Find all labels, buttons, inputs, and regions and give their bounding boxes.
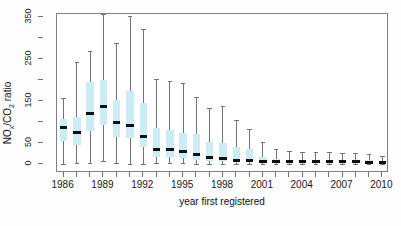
boxplot-box (163, 14, 176, 171)
median-line (86, 112, 93, 115)
median-line (100, 105, 107, 108)
y-axis-tick (38, 142, 43, 143)
boxplot-box (243, 14, 256, 171)
whisker-cap-lower (221, 164, 226, 165)
boxplot-box (203, 14, 216, 171)
whisker-cap-upper (114, 43, 119, 44)
whisker-cap-upper (221, 106, 226, 107)
x-axis-tick (102, 172, 103, 177)
x-axis-tick-label: 1998 (211, 179, 233, 190)
y-axis-tick (38, 37, 43, 38)
boxplot-box (376, 14, 387, 171)
whisker-cap-lower (75, 163, 80, 164)
median-line (259, 160, 266, 163)
boxplot-box (190, 14, 203, 171)
whisker-cap-upper (101, 14, 106, 15)
whisker-cap-upper (300, 152, 305, 153)
boxplot-box (269, 14, 282, 171)
whisker-cap-lower (314, 164, 319, 165)
median-line (339, 160, 346, 163)
whisker-cap-lower (181, 163, 186, 164)
whisker-cap-upper (181, 83, 186, 84)
whisker-cap-lower (61, 164, 66, 165)
whisker-cap-upper (168, 81, 173, 82)
median-line (272, 160, 279, 163)
x-axis: year first registered 198619891992199519… (0, 172, 401, 226)
whisker-cap-lower (274, 164, 279, 165)
boxplot-box (256, 14, 269, 171)
whisker-cap-lower (168, 163, 173, 164)
boxplot-box (70, 14, 83, 171)
whisker-cap-lower (234, 164, 239, 165)
y-axis-tick (38, 58, 43, 59)
whisker-cap-upper (234, 120, 239, 121)
whisker-cap-upper (247, 129, 252, 130)
median-line (126, 124, 133, 127)
median-line (352, 160, 359, 163)
x-axis-tick (288, 172, 289, 177)
y-axis-tick (38, 79, 43, 80)
boxplot-box (349, 14, 362, 171)
x-axis-tick (129, 172, 130, 177)
whisker-cap-upper (261, 142, 266, 143)
y-axis-tick-label: 350 (23, 4, 33, 28)
box-rect (60, 119, 67, 141)
box-rect (179, 133, 186, 158)
x-axis-tick (116, 172, 117, 177)
x-axis-tick (355, 172, 356, 177)
whisker-cap-lower (353, 164, 358, 165)
x-axis-tick (342, 172, 343, 177)
x-axis-title: year first registered (179, 196, 265, 207)
boxplot-box (177, 14, 190, 171)
whisker-cap-upper (61, 98, 66, 99)
whisker-cap-lower (207, 164, 212, 165)
x-axis-tick-label: 2004 (291, 179, 313, 190)
x-axis-tick (156, 172, 157, 177)
x-axis-tick-label: 2007 (330, 179, 352, 190)
whisker-cap-upper (380, 156, 385, 157)
median-line (193, 153, 200, 156)
median-line (246, 159, 253, 162)
whisker-cap-lower (261, 164, 266, 165)
boxplot-box (336, 14, 349, 171)
boxplot-box (309, 14, 322, 171)
x-axis-tick (262, 172, 263, 177)
y-axis-tick (38, 100, 43, 101)
y-axis-tick (38, 16, 43, 17)
boxplot-box (216, 14, 229, 171)
box-rect (113, 100, 120, 137)
box-rect (86, 82, 93, 131)
median-line (153, 148, 160, 151)
x-axis-tick (142, 172, 143, 177)
whisker-cap-upper (75, 62, 80, 63)
plot-frame (56, 13, 388, 172)
x-axis-tick (76, 172, 77, 177)
median-line (73, 131, 80, 134)
median-line (140, 135, 147, 138)
median-line (326, 160, 333, 163)
y-axis-title: NOx/CO2 ratio (2, 82, 15, 144)
x-axis-tick-label: 2001 (251, 179, 273, 190)
x-axis-tick (222, 172, 223, 177)
x-axis-tick (249, 172, 250, 177)
whisker-cap-upper (287, 151, 292, 152)
whisker-cap-upper (274, 149, 279, 150)
whisker-cap-lower (327, 164, 332, 165)
box-rect (100, 80, 107, 125)
median-line (60, 126, 67, 129)
whisker-cap-upper (314, 152, 319, 153)
whisker-cap-lower (247, 164, 252, 165)
plot-area (57, 14, 387, 171)
whisker-cap-upper (367, 154, 372, 155)
whisker-cap-upper (88, 51, 93, 52)
x-axis-tick (195, 172, 196, 177)
whisker-cap-upper (340, 153, 345, 154)
whisker-cap-lower (114, 163, 119, 164)
whisker-cap-lower (141, 164, 146, 165)
whisker-cap-lower (287, 164, 292, 165)
median-line (206, 156, 213, 159)
boxplot-box (123, 14, 136, 171)
x-axis-tick (235, 172, 236, 177)
whisker-cap-upper (207, 108, 212, 109)
whisker-cap-upper (353, 153, 358, 154)
